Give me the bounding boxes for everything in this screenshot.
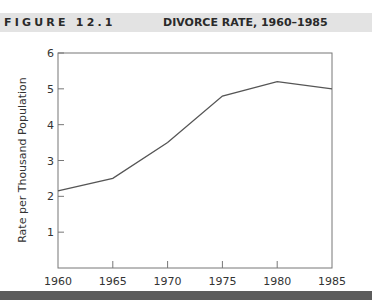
y-axis-ticks: 123456 [47, 47, 64, 239]
y-tick-label: 6 [47, 47, 54, 60]
x-tick-label: 1980 [263, 275, 291, 288]
plot-frame [58, 53, 332, 268]
x-axis-ticks: 196019651970197519801985 [44, 261, 346, 288]
y-tick-label: 5 [47, 83, 54, 96]
y-tick-label: 2 [47, 190, 54, 203]
y-tick-label: 1 [47, 226, 54, 239]
bottom-rule [0, 291, 372, 300]
x-tick-label: 1970 [154, 275, 182, 288]
x-tick-label: 1985 [318, 275, 346, 288]
y-tick-label: 3 [47, 155, 54, 168]
x-tick-label: 1960 [44, 275, 72, 288]
x-tick-label: 1975 [208, 275, 236, 288]
divorce-rate-line [58, 82, 332, 191]
x-tick-label: 1965 [99, 275, 127, 288]
y-tick-label: 4 [47, 119, 54, 132]
line-chart: 123456 196019651970197519801985 Rate per… [0, 0, 381, 305]
y-axis-label: Rate per Thousand Population [16, 77, 29, 243]
